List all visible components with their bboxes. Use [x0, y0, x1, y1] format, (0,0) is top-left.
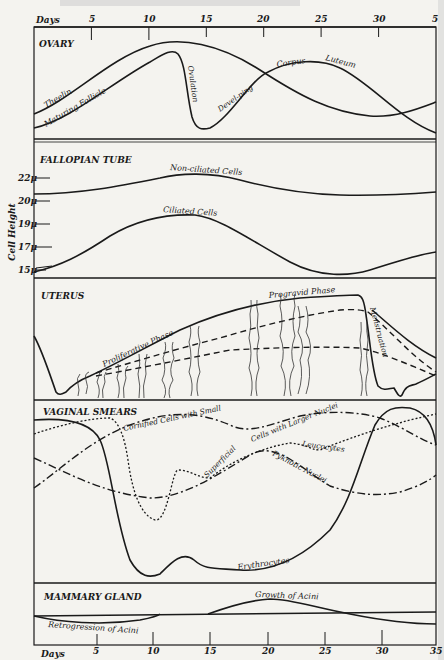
curve-growth-of-acini [208, 599, 436, 624]
label-maturing-follicle: Maturing Follicle [42, 86, 108, 129]
panel-fallopian-tube: FALLOPIAN TUBE Cell Height 22μ 20μ 19μ 1… [7, 155, 436, 275]
panel-vaginal-smears: VAGINAL SMEARS Cornified Cells with Smal… [34, 400, 436, 576]
y-tick-15: 15μ [18, 265, 38, 275]
curve-erythrocytes [34, 407, 436, 576]
panel-title-vaginal: VAGINAL SMEARS [43, 407, 138, 417]
curve-ciliated-cells [34, 215, 436, 275]
bottom-tick-20: 20 [261, 646, 275, 656]
top-tick-30: 30 [373, 14, 386, 24]
label-cornified: Cornified Cells with Small [123, 403, 223, 433]
panel-ovary: OVARY Theelin Maturing Follicle Ovulatio… [34, 39, 436, 133]
top-tick-15: 15 [200, 14, 213, 24]
top-tick-10: 10 [143, 14, 156, 24]
curve-leucocytes [34, 414, 436, 520]
mammary-baseline [34, 612, 436, 616]
reproductive-cycle-chart: Days 5 10 15 20 25 30 5 OVARY Theelin Ma… [0, 0, 444, 660]
label-developing: Devel-ping [215, 83, 255, 115]
top-tick-20: 20 [256, 14, 270, 24]
y-tick-22: 22μ [17, 173, 38, 183]
top-tick-35: 5 [432, 14, 438, 24]
bottom-tick-15: 15 [204, 646, 217, 656]
label-proliferative-phase: Proliferative Phase [100, 328, 175, 369]
curve-cornified-cells [34, 451, 436, 498]
top-tick-5: 5 [89, 14, 95, 24]
panel-title-ovary: OVARY [39, 39, 75, 49]
y-tick-19: 19μ [18, 219, 38, 229]
label-corpus: Corpus [276, 56, 306, 69]
label-cells-larger-nuclei: Cells with Larger Nuclei [249, 400, 339, 444]
bottom-tick-marks [97, 630, 382, 645]
panel-mammary-gland: MAMMARY GLAND Growth of Acini Retrogress… [34, 590, 436, 645]
top-axis: Days 5 10 15 20 25 30 5 [35, 14, 438, 25]
label-erythrocytes: Erythrocytes [236, 556, 290, 572]
y-tick-17: 17μ [18, 242, 38, 252]
panel-uterus: UTERUS Prol [34, 285, 436, 398]
y-tick-marks [36, 178, 52, 270]
bottom-tick-30: 30 [376, 646, 389, 656]
panel-title-fallopian: FALLOPIAN TUBE [39, 155, 132, 165]
curve-non-ciliated-cells [34, 174, 436, 195]
top-tick-marks [91, 27, 378, 40]
bottom-axis: Days 5 10 15 20 25 30 35 [40, 646, 443, 659]
top-tick-25: 25 [314, 14, 328, 24]
bottom-tick-35: 35 [430, 646, 443, 656]
label-leucocytes: Leucocytes [301, 439, 346, 454]
top-axis-label: Days [35, 15, 60, 25]
label-pyknotic-nuclei: Pyknotic Nuclei [270, 448, 329, 485]
bottom-tick-5: 5 [93, 646, 99, 656]
panel-title-uterus: UTERUS [41, 291, 85, 301]
panel-title-mammary: MAMMARY GLAND [43, 592, 142, 602]
bottom-tick-25: 25 [318, 646, 332, 656]
bottom-axis-label: Days [40, 649, 65, 659]
y-tick-20: 20μ [17, 196, 38, 206]
panel-dividers [34, 139, 436, 583]
bottom-tick-10: 10 [147, 646, 160, 656]
uterine-glands [77, 294, 368, 398]
y-axis-label: Cell Height [7, 202, 17, 260]
